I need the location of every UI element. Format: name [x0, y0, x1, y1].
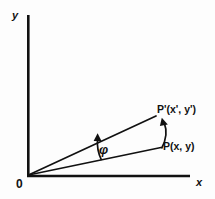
x-axis-label: x — [196, 177, 202, 188]
point-p-label: P(x, y) — [163, 141, 195, 152]
y-axis-label: y — [12, 10, 18, 21]
point-p-prime-label: P'(x', y') — [157, 104, 196, 115]
rotation-figure-svg — [0, 0, 215, 199]
ray-origin-to-p — [29, 148, 162, 176]
rotation-diagram: y x 0 P'(x', y') P(x, y) φ — [0, 0, 215, 199]
angle-phi-label: φ — [99, 143, 108, 156]
angle-arc-arrowhead-icon — [94, 133, 102, 141]
rotation-arc-arrowhead-icon — [160, 118, 168, 126]
ray-origin-to-p-prime — [29, 116, 157, 175]
origin-label: 0 — [16, 178, 23, 190]
